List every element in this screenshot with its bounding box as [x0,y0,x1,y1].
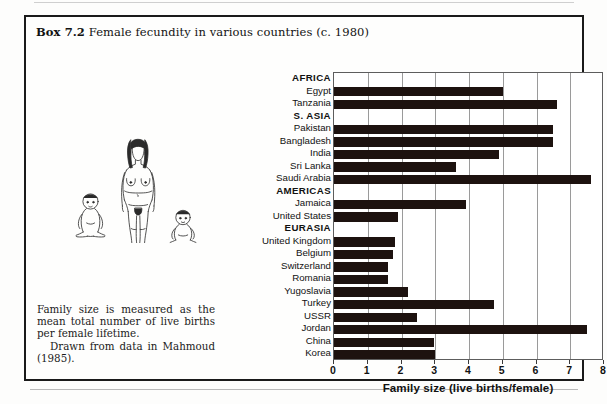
country-label-united-states: United States [171,210,331,223]
x-tick-label-3: 3 [424,364,444,376]
group-label-eurasia: EURASIA [171,222,331,235]
x-tick-label-0: 0 [323,364,343,376]
x-tick-label-7: 7 [559,364,579,376]
bar-yugoslavia [334,287,408,296]
plot-area [333,72,603,360]
country-label-tanzania: Tanzania [171,97,331,110]
bar-jordan [334,325,587,334]
bar-sri-lanka [334,162,456,171]
chart-row [334,273,602,286]
chart-row [334,311,602,324]
box-7-2-container: Box 7.2 Female fecundity in various coun… [24,15,584,381]
country-label-sri-lanka: Sri Lanka [171,160,331,173]
x-tick-label-1: 1 [357,364,377,376]
bar-pakistan [334,125,553,134]
x-tick-label-2: 2 [391,364,411,376]
chart-row [334,86,602,99]
chart-row [334,186,602,199]
country-label-yugoslavia: Yugoslavia [171,285,331,298]
country-label-saudi-arabia: Saudi Arabia [171,172,331,185]
country-label-india: India [171,147,331,160]
country-label-belgium: Belgium [171,247,331,260]
country-label-ussr: USSR [171,310,331,323]
country-label-jordan: Jordan [171,322,331,335]
scanned-page: Box 7.2 Female fecundity in various coun… [0,0,607,404]
bar-romania [334,275,388,284]
country-label-korea: Korea [171,347,331,360]
chart-row [334,323,602,336]
box-title: Box 7.2 Female fecundity in various coun… [36,25,369,39]
bar-korea [334,350,435,359]
country-label-egypt: Egypt [171,85,331,98]
x-axis: 012345678 [333,360,603,378]
chart-row [334,111,602,124]
box-number: Box 7.2 [36,25,85,39]
bar-united-states [334,212,398,221]
bar-turkey [334,300,494,309]
chart-row [334,73,602,86]
box-title-text: Female fecundity in various countries (c… [89,25,369,39]
country-label-switzerland: Switzerland [171,260,331,273]
chart-row [334,298,602,311]
bar-china [334,338,434,347]
bar-belgium [334,250,393,259]
chart-row [334,148,602,161]
chart-row [334,173,602,186]
chart-row [334,223,602,236]
x-tick-label-6: 6 [526,364,546,376]
chart-row [334,261,602,274]
bar-tanzania [334,100,557,109]
bar-united-kingdom [334,237,395,246]
chart-row [334,136,602,149]
country-label-turkey: Turkey [171,297,331,310]
chart-row [334,211,602,224]
fecundity-bar-chart: 012345678 Family size (live births/femal… [196,57,607,377]
bar-jamaica [334,200,466,209]
chart-row [334,123,602,136]
bar-bangladesh [334,137,553,146]
country-label-united-kingdom: United Kingdom [171,235,331,248]
country-label-romania: Romania [171,272,331,285]
country-label-china: China [171,335,331,348]
group-label-africa: AFRICA [171,72,331,85]
page-edge-artifact-top [34,2,574,3]
x-tick-label-8: 8 [593,364,607,376]
country-label-bangladesh: Bangladesh [171,135,331,148]
chart-row [334,98,602,111]
chart-row [334,248,602,261]
x-tick-label-4: 4 [458,364,478,376]
chart-row [334,198,602,211]
country-label-pakistan: Pakistan [171,122,331,135]
bar-india [334,150,499,159]
bar-egypt [334,87,503,96]
x-tick-label-5: 5 [492,364,512,376]
chart-row [334,336,602,349]
bar-switzerland [334,262,388,271]
bar-saudi-arabia [334,175,591,184]
x-axis-title: Family size (live births/female) [333,381,603,394]
chart-row [334,286,602,299]
chart-row [334,161,602,174]
group-label-americas: AMERICAS [171,185,331,198]
bar-ussr [334,313,417,322]
group-label-s-asia: S. ASIA [171,110,331,123]
country-label-jamaica: Jamaica [171,197,331,210]
chart-row [334,236,602,249]
